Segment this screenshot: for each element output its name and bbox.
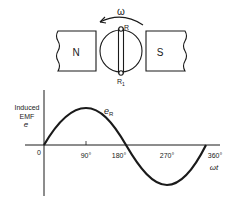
conductor-r-end bbox=[119, 27, 123, 31]
tick-label-90: 90° bbox=[81, 152, 92, 159]
generator-emf-diagram: ω N S R R1 Induced EMF e eR 0 90° 180° 2… bbox=[0, 0, 234, 209]
coil-loop bbox=[119, 29, 124, 73]
conductor-r1-subscript: 1 bbox=[122, 81, 125, 87]
emf-sine-curve bbox=[44, 108, 206, 185]
conductor-r1-label: R1 bbox=[117, 78, 125, 87]
x-axis-label: ωt bbox=[210, 163, 219, 172]
north-pole-label: N bbox=[72, 47, 79, 58]
armature-circle bbox=[100, 30, 142, 72]
curve-label-subscript: R bbox=[109, 111, 114, 117]
omega-label: ω bbox=[117, 6, 125, 17]
origin-label: 0 bbox=[37, 149, 41, 156]
y-axis-label-emf: EMF bbox=[20, 113, 35, 120]
tick-label-360: 360° bbox=[208, 152, 223, 159]
tick-label-180: 180° bbox=[112, 152, 127, 159]
tick-label-270: 270° bbox=[160, 152, 175, 159]
south-pole-magnet bbox=[146, 31, 187, 71]
conductor-r1-end bbox=[119, 71, 123, 75]
y-axis-label-induced: Induced bbox=[15, 104, 40, 111]
y-axis-label-e: e bbox=[24, 120, 29, 129]
rotation-arrow bbox=[100, 17, 143, 25]
emf-graph bbox=[25, 90, 220, 196]
south-pole-label: S bbox=[157, 47, 164, 58]
curve-label: eR bbox=[104, 106, 114, 117]
conductor-r-label: R bbox=[124, 24, 129, 31]
